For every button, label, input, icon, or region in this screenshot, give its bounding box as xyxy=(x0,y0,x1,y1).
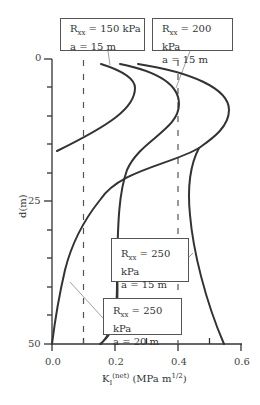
annotation-a: a = 20 m xyxy=(113,335,181,348)
y-axis xyxy=(44,59,52,344)
annotation-box-150kpa: Rxx = 150 kPa a = 15 m xyxy=(60,18,145,51)
annotation-a: a = 15 m xyxy=(70,40,144,53)
x-tick-0-2: 0.2 xyxy=(108,356,124,367)
x-label-units: (MPa m xyxy=(132,373,171,384)
annotation-rxx: Rxx = 250 kPa xyxy=(113,304,181,335)
x-axis-label: KI(net) (MPa m1/2) xyxy=(102,372,187,387)
annotation-rxx: Rxx = 250 kPa xyxy=(121,247,188,278)
x-label-close: ) xyxy=(183,373,187,384)
x-tick-0-6: 0.6 xyxy=(234,356,250,367)
annotation-box-250kpa-a15: Rxx = 250 kPa a = 15 m xyxy=(111,238,189,282)
x-tick-0-4: 0.4 xyxy=(171,356,187,367)
y-tick-0: 0 xyxy=(35,52,41,63)
curve-150kpa-a15 xyxy=(57,64,135,151)
y-tick-50: 50 xyxy=(28,338,41,349)
annotation-a: a = 15 m xyxy=(121,278,188,291)
annotation-box-250kpa-a20: Rxx = 250 kPa a = 20 m xyxy=(103,298,182,335)
annotation-rxx: Rxx = 150 kPa xyxy=(70,22,144,40)
y-tick-25: 25 xyxy=(28,195,41,206)
x-tick-0-0: 0.0 xyxy=(45,356,61,367)
annotation-a: a = 15 m xyxy=(162,53,232,66)
x-label-units-sup: 1/2 xyxy=(171,372,182,380)
annotation-box-200kpa: Rxx = 200 kPa a = 15 m xyxy=(152,18,233,51)
annotation-rxx: Rxx = 200 kPa xyxy=(162,22,232,53)
x-label-sub: I xyxy=(109,379,112,387)
x-label-sup: (net) xyxy=(112,372,129,380)
y-axis-label: d(m) xyxy=(17,194,28,218)
